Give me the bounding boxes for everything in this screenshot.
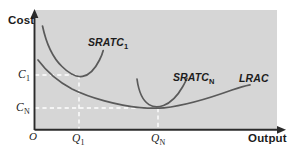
sratc1-label-base: SRATC <box>88 36 124 48</box>
lrac-label: LRAC <box>239 73 269 84</box>
x-tick-label-qn: QN <box>151 133 165 145</box>
cost-curves-figure: Cost Output O C1 CN Q1 QN SRATC1 SRATCN … <box>0 0 292 154</box>
lrac-label-base: LRAC <box>239 72 269 84</box>
y-tick-label-cn: CN <box>16 102 29 114</box>
y-tick-label-c1: C1 <box>18 69 30 81</box>
sratc1-label-subscript: 1 <box>124 42 128 51</box>
origin-label: O <box>29 131 37 142</box>
x-tick-qn-base: Q <box>151 132 159 144</box>
sratcn-label-subscript: N <box>209 77 215 86</box>
x-tick-qn-subscript: N <box>160 138 166 147</box>
sratc1-label: SRATC1 <box>88 37 128 48</box>
x-tick-q1-subscript: 1 <box>81 138 85 147</box>
y-tick-cn-subscript: N <box>24 107 30 116</box>
x-axis-title: Output <box>248 133 287 145</box>
x-tick-label-q1: Q1 <box>72 133 84 145</box>
x-tick-q1-base: Q <box>72 132 80 144</box>
sratcn-label: SRATCN <box>173 72 214 83</box>
plot-background <box>34 10 277 130</box>
y-tick-c1-base: C <box>18 68 26 80</box>
y-tick-c1-subscript: 1 <box>26 74 30 83</box>
y-axis-title: Cost <box>8 15 34 27</box>
y-tick-cn-base: C <box>16 101 24 113</box>
sratcn-label-base: SRATC <box>173 71 209 83</box>
